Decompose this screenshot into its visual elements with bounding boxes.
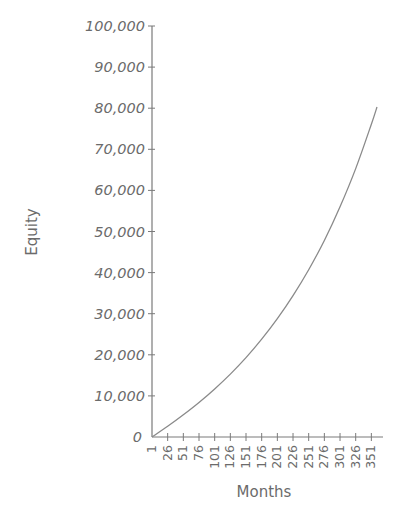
y-tick-label: 90,000 [94, 59, 145, 75]
x-tick-label: 176 [254, 445, 269, 469]
x-tick-label: 126 [222, 445, 237, 469]
y-tick-label: 0 [133, 429, 142, 445]
x-tick-label: 151 [238, 445, 253, 469]
x-tick-label: 26 [160, 445, 175, 461]
x-tick-label: 51 [175, 445, 190, 461]
y-tick-label: 100,000 [85, 18, 145, 34]
x-tick-label: 76 [191, 445, 206, 461]
x-tick-label: 326 [348, 445, 363, 469]
x-tick-label: 1 [144, 445, 159, 453]
equity-curve [152, 107, 377, 437]
y-tick-label: 10,000 [94, 388, 145, 404]
x-tick-label: 251 [301, 445, 316, 469]
y-axis: 010,00020,00030,00040,00050,00060,00070,… [85, 18, 155, 445]
x-tick-label: 301 [332, 445, 347, 469]
y-tick-label: 20,000 [94, 347, 145, 363]
y-tick-label: 50,000 [94, 224, 145, 240]
x-axis-title: Months [237, 483, 292, 501]
x-tick-label: 226 [285, 445, 300, 469]
x-tick-label: 101 [207, 445, 222, 469]
y-tick-label: 40,000 [94, 265, 145, 281]
y-tick-label: 70,000 [94, 141, 145, 157]
x-tick-label: 201 [269, 445, 284, 469]
y-tick-label: 30,000 [94, 306, 145, 322]
x-tick-label: 351 [363, 445, 378, 469]
y-axis-title: Equity [23, 208, 41, 256]
x-axis: 1265176101126151176201226251276301326351 [144, 433, 383, 469]
equity-line-chart: 010,00020,00030,00040,00050,00060,00070,… [0, 0, 405, 508]
y-tick-label: 60,000 [94, 182, 145, 198]
x-tick-label: 276 [316, 445, 331, 469]
y-tick-label: 80,000 [94, 100, 145, 116]
